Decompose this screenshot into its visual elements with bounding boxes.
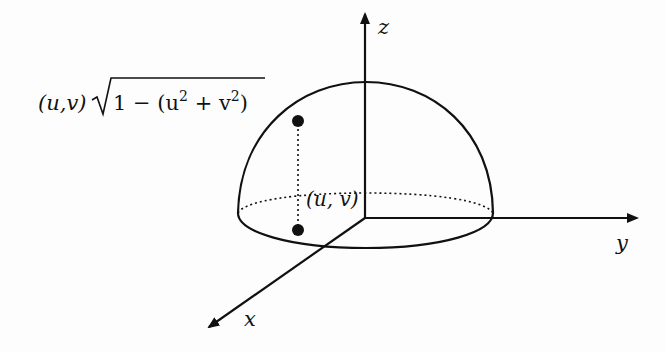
point-base <box>292 224 304 236</box>
point-top <box>292 115 304 127</box>
x-axis-label: x <box>244 307 256 331</box>
z-axis-label: z <box>377 15 390 39</box>
hemisphere-diagram: z y x (u, v) (u,v) 1 − (u2 + v2) <box>0 0 666 352</box>
y-axis-label: y <box>615 231 629 255</box>
point-base-label: (u, v) <box>306 187 359 211</box>
point-top-label-radicand: 1 − (u2 + v2) <box>113 88 248 115</box>
point-top-label: (u,v) 1 − (u2 + v2) <box>38 78 265 115</box>
point-top-label-prefix: (u,v) <box>38 91 86 115</box>
x-axis <box>209 218 365 327</box>
